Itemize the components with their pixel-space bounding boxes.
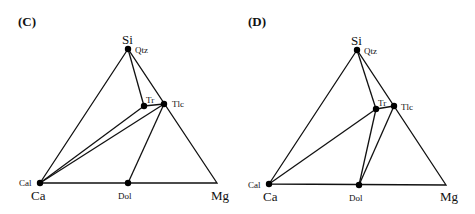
vertex-label-ca: Ca <box>263 189 278 204</box>
phase-point-tlc <box>161 101 167 107</box>
panel-c-label: (C) <box>18 14 36 29</box>
phase-label-qtz: Qtz <box>364 46 377 56</box>
phase-point-dol <box>125 180 131 186</box>
vertex-label-mg: Mg <box>440 189 459 204</box>
phase-point-cal <box>266 181 272 187</box>
vertex-label-si: Si <box>122 32 133 47</box>
panel-c: (C) Si Ca Mg Qtz Tr Tlc Cal Dol <box>18 14 230 203</box>
panel-d-label: (D) <box>248 14 266 29</box>
tie-line-cal-tr <box>40 106 144 183</box>
tie-line-cal-tr <box>269 109 376 184</box>
panel-d: (D) Si Ca Mg Qtz Tr Tlc Cal Dol <box>248 14 459 204</box>
phase-label-dol: Dol <box>349 193 363 203</box>
phase-label-tlc: Tlc <box>401 102 413 112</box>
tie-line-qtz-tr <box>128 49 144 106</box>
tie-line-qtz-tr <box>357 50 376 109</box>
phase-label-qtz: Qtz <box>135 45 148 55</box>
phase-label-tr: Tr <box>146 95 154 105</box>
phase-label-dol: Dol <box>118 191 132 201</box>
tie-line-dol-tr <box>359 109 376 185</box>
vertex-label-ca: Ca <box>31 188 46 203</box>
phase-label-tlc: Tlc <box>172 99 184 109</box>
phase-point-cal <box>37 180 43 186</box>
vertex-label-mg: Mg <box>211 188 230 203</box>
phase-label-cal: Cal <box>19 178 32 188</box>
phase-label-cal: Cal <box>248 180 261 190</box>
phase-label-tr: Tr <box>378 98 386 108</box>
vertex-label-si: Si <box>351 33 362 48</box>
ternary-diagrams: (C) Si Ca Mg Qtz Tr Tlc Cal Dol (D) Si <box>0 0 475 214</box>
phase-point-dol <box>356 182 362 188</box>
phase-point-tlc <box>391 103 397 109</box>
